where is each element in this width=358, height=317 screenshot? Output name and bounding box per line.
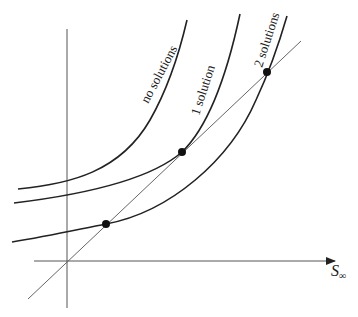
- diagonal-line: [28, 41, 301, 299]
- x-axis-label-subscript: ∞: [339, 270, 346, 281]
- diagram-canvas: no solutions 1 solution 2 solutions S∞: [0, 0, 358, 317]
- x-axis-label: S∞: [331, 262, 346, 281]
- curve-one-solution: [14, 14, 240, 203]
- curve-no-solutions: [18, 20, 187, 189]
- label-one-solution: 1 solution: [188, 63, 218, 117]
- diagram-svg: no solutions 1 solution 2 solutions S∞: [0, 0, 358, 317]
- lower-intersection-dot: [102, 220, 110, 228]
- tangent-point-dot: [178, 148, 186, 156]
- label-no-solutions: no solutions: [137, 43, 180, 106]
- label-two-solutions: 2 solutions: [251, 10, 283, 69]
- curve-two-solutions: [12, 16, 287, 242]
